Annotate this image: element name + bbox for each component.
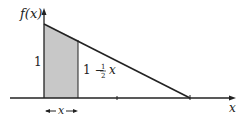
width-label: x	[58, 104, 65, 117]
line-label-var: x	[109, 63, 116, 77]
arrow-right-icon	[73, 109, 78, 113]
shaded-area	[44, 24, 78, 98]
triangular-density-diagram: f(x) x 1 1 − 1 2 x x	[0, 0, 246, 122]
y-axis-label: f(x)	[19, 6, 42, 21]
diagram-canvas: f(x) x 1 1 − 1 2 x x	[0, 0, 246, 122]
height-label: 1	[34, 55, 42, 69]
frac-numerator: 1	[101, 63, 105, 71]
x-axis-label: x	[229, 101, 236, 115]
frac-denominator: 2	[101, 72, 105, 80]
x-axis-arrow-icon	[229, 96, 236, 101]
arrow-left-icon	[45, 109, 50, 113]
